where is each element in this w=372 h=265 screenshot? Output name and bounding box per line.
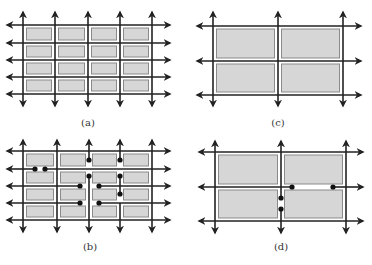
break-dot: [77, 183, 82, 188]
cell-rect: [27, 63, 52, 74]
cell-rect: [124, 28, 149, 40]
panel-label-b: (b): [83, 241, 97, 252]
break-dot: [86, 157, 91, 162]
cell-rect: [93, 154, 117, 166]
cell-rect: [93, 206, 117, 217]
cell-rect: [92, 63, 117, 74]
break-dot: [42, 166, 47, 171]
cell-rect: [124, 63, 149, 74]
cell-rect: [61, 154, 86, 166]
cell-rect: [219, 155, 278, 184]
panel-label-d: (d): [274, 241, 288, 252]
break-dot: [32, 166, 37, 171]
break-dot: [330, 184, 335, 189]
cell-rect: [27, 189, 54, 200]
cell-rect: [27, 80, 52, 91]
cell-rect: [282, 64, 340, 92]
break-dot: [289, 184, 294, 189]
cell-rect: [124, 154, 149, 166]
cell-rect: [124, 80, 149, 91]
cell-rect: [217, 64, 275, 92]
cell-rect: [27, 206, 54, 217]
cell-rect: [92, 46, 117, 57]
break-dot: [278, 206, 283, 211]
break-dot: [117, 157, 122, 162]
cell-rect: [285, 155, 343, 184]
break-dot: [96, 200, 101, 205]
cell-rect: [124, 189, 149, 200]
cell-rect: [285, 190, 343, 218]
cell-rect: [92, 28, 117, 40]
cell-rect: [217, 29, 275, 58]
cell-rect: [59, 28, 85, 40]
cell-rect: [124, 46, 149, 57]
cell-rect: [27, 46, 52, 57]
cell-rect: [124, 172, 149, 183]
cell-rect: [93, 189, 117, 200]
cell-rect: [59, 63, 85, 74]
cell-rect: [27, 154, 54, 166]
break-dot: [96, 183, 101, 188]
cell-rect: [59, 80, 85, 91]
cell-rect: [59, 46, 85, 57]
cell-rect: [219, 190, 278, 218]
break-dot: [77, 200, 82, 205]
cell-rect: [27, 172, 54, 183]
break-dot: [86, 173, 91, 178]
cell-rect: [93, 172, 117, 183]
cell-rect: [61, 206, 86, 217]
panel-label-c: (c): [271, 117, 285, 128]
cell-rect: [282, 29, 340, 58]
cell-rect: [92, 80, 117, 91]
break-dot: [117, 173, 122, 178]
break-dot: [117, 191, 122, 196]
break-dot: [278, 195, 283, 200]
cell-rect: [61, 172, 86, 183]
cell-rect: [61, 189, 86, 200]
routing-grid-diagram: (a) (c) (b) (d): [0, 0, 372, 265]
cell-rect: [124, 206, 149, 217]
panel-label-a: (a): [81, 117, 95, 128]
cell-rect: [27, 28, 52, 40]
cell-rectangles: [27, 28, 343, 218]
